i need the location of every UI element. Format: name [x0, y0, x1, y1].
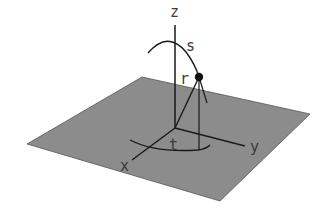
x-axis-label: x [120, 157, 129, 175]
z-axis-label: z [170, 3, 179, 21]
t-label: t [169, 136, 178, 154]
spherical-coordinates-diagram: z s r t y x [0, 0, 333, 215]
r-label: r [180, 70, 189, 88]
y-axis-label: y [250, 138, 259, 156]
point-marker [195, 73, 203, 81]
s-label: s [186, 37, 195, 55]
